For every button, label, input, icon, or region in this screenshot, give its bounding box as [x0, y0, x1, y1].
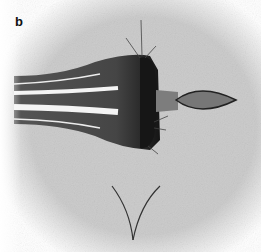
micrograph-image [0, 0, 261, 252]
panel-label: b [15, 14, 23, 29]
